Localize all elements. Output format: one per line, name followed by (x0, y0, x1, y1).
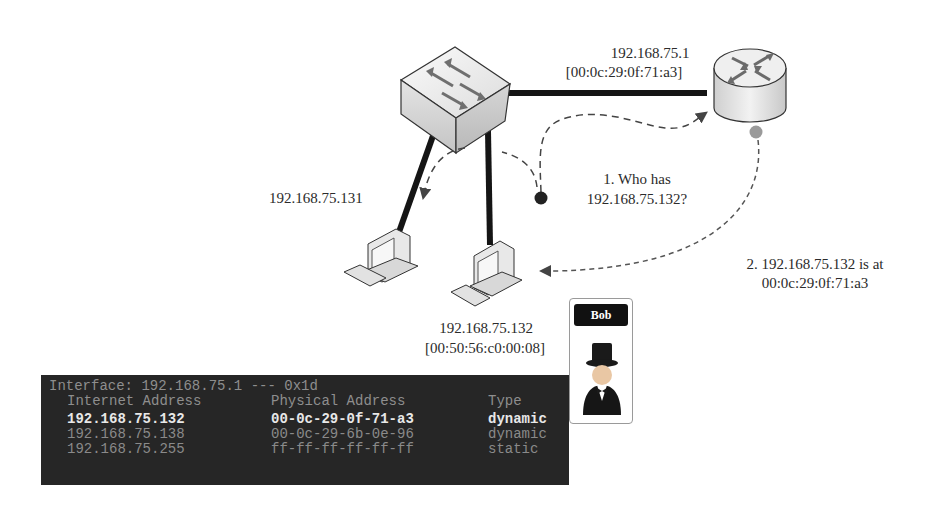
top-hat-person-icon (580, 341, 624, 417)
header-physical-address: Physical Address (271, 394, 405, 409)
computer-icon-132 (451, 241, 522, 306)
host2-ip-label: 192.168.75.132 (411, 319, 561, 338)
attacker-card: Bob (569, 298, 633, 424)
table-row: 192.168.75.255 ff-ff-ff-ff-ff-ff static (41, 442, 569, 457)
step2-line1: 2. 192.168.75.132 is at (710, 255, 920, 274)
step2-line2: 00:0c:29:0f:71:a3 (710, 274, 920, 293)
step1-line2: 192.168.75.132? (567, 190, 707, 209)
host2-mac-label: [00:50:56:c0:00:08] (400, 339, 570, 358)
header-type: Type (488, 394, 522, 409)
reply-dot (750, 126, 763, 139)
host1-ip-label: 192.168.75.131 (269, 189, 363, 208)
interface-line: Interface: 192.168.75.1 --- 0x1d (41, 379, 569, 394)
header-internet-address: Internet Address (67, 394, 201, 409)
router-icon (714, 49, 786, 122)
computer-icon-131 (344, 229, 418, 286)
request-dot (535, 192, 548, 205)
table-row: 192.168.75.132 00-0c-29-0f-71-a3 dynamic (41, 412, 569, 427)
attacker-name: Bob (574, 304, 628, 326)
table-row: 192.168.75.138 00-0c-29-6b-0e-96 dynamic (41, 427, 569, 442)
arp-table-terminal: Interface: 192.168.75.1 --- 0x1d Interne… (41, 375, 569, 485)
switch-icon (401, 47, 510, 153)
arp-table-header: Internet Address Physical Address Type (41, 394, 569, 409)
router-ip-label: 192.168.75.1 (600, 44, 700, 63)
router-mac-label: [00:0c:29:0f:71:a3] (546, 63, 702, 82)
step1-line1: 1. Who has (567, 170, 707, 189)
